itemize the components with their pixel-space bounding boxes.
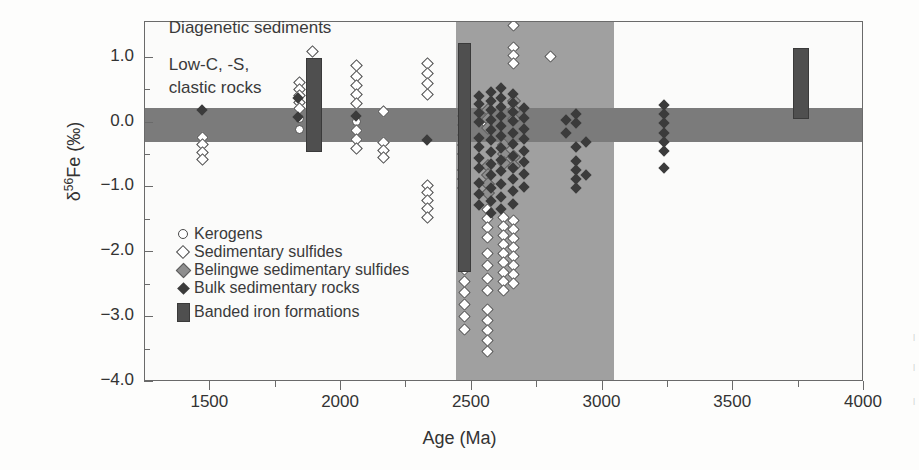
legend-item-open-diamond: Sedimentary sulfides <box>172 243 409 261</box>
legend-item-gray-diamond: Belingwe sedimentary sulfides <box>172 261 409 279</box>
x-tick-minor <box>798 381 799 387</box>
y-tick-major <box>144 381 153 382</box>
y-tick-major <box>144 122 153 123</box>
legend-swatch-black-diamond <box>172 284 194 293</box>
legend-swatch-open-circle <box>172 229 194 239</box>
y-tick-minor <box>144 89 150 90</box>
x-tick-label: 4000 <box>823 392 903 412</box>
page-edge-mark-2: | <box>913 362 915 371</box>
bif-1890 <box>306 58 322 152</box>
y-tick-major <box>144 57 153 58</box>
y-tick-minor <box>144 219 150 220</box>
legend-swatch-open-diamond <box>172 247 194 257</box>
data-point-sulfide <box>306 45 319 58</box>
x-tick-major <box>471 381 472 390</box>
x-tick-minor <box>405 381 406 387</box>
data-point-sulfide <box>421 88 434 101</box>
y-tick-major <box>144 186 153 187</box>
data-point-sulfide <box>421 211 434 224</box>
data-point-bulk <box>658 145 669 156</box>
y-axis-label-unit: Fe (‰) <box>64 122 84 178</box>
x-tick-label: 1500 <box>169 392 249 412</box>
legend-item-dark-bar: Banded iron formations <box>172 301 409 323</box>
y-tick-label: −3.0 <box>100 305 134 325</box>
legend-item-open-circle: Kerogens <box>172 225 409 243</box>
figure-root: δ56Fe (‰) Age (Ma) 1.00.0−1.0−2.0−3.0−4.… <box>0 0 919 470</box>
x-tick-label: 3500 <box>692 392 772 412</box>
page-edge-mark-3: | <box>913 396 915 405</box>
x-tick-major <box>602 381 603 390</box>
data-point-bulk <box>658 162 669 173</box>
open-circle-icon <box>178 229 188 239</box>
black-diamond-icon <box>177 282 190 295</box>
y-tick-label: −1.0 <box>100 175 134 195</box>
y-tick-minor <box>144 349 150 350</box>
page-edge-mark-1: | <box>913 332 915 341</box>
x-tick-minor <box>667 381 668 387</box>
y-tick-minor <box>144 154 150 155</box>
dark-bar-icon <box>177 303 190 322</box>
plot-clip <box>145 22 862 380</box>
x-tick-label: 3000 <box>562 392 642 412</box>
data-point-sulfide <box>377 152 390 165</box>
legend-label: Kerogens <box>194 225 263 243</box>
open-diamond-icon <box>176 245 190 259</box>
plot-area <box>144 21 863 381</box>
legend-item-black-diamond: Bulk sedimentary rocks <box>172 279 409 297</box>
gray-diamond-icon <box>175 262 191 278</box>
y-tick-label: 0.0 <box>110 111 134 131</box>
legend-swatch-dark-bar <box>172 303 194 322</box>
x-tick-major <box>732 381 733 390</box>
y-axis-label: δ56Fe (‰) <box>62 97 85 227</box>
y-tick-label: −4.0 <box>100 370 134 390</box>
x-tick-label: 2500 <box>431 392 511 412</box>
y-tick-minor <box>144 284 150 285</box>
x-tick-major <box>863 381 864 390</box>
y-tick-major <box>144 316 153 317</box>
legend-label: Bulk sedimentary rocks <box>194 279 359 297</box>
plot-annotation-3: clastic rocks <box>169 78 262 98</box>
y-tick-label: 1.0 <box>110 46 134 66</box>
plot-annotation-1: Diagenetic sediments <box>169 18 332 38</box>
x-tick-major <box>340 381 341 390</box>
y-tick-label: −2.0 <box>100 240 134 260</box>
legend-label: Banded iron formations <box>194 303 359 321</box>
bif-2470 <box>458 43 470 272</box>
bif-3750 <box>793 48 809 119</box>
plot-annotation-2: Low-C, -S, <box>169 55 249 75</box>
x-axis-label: Age (Ma) <box>0 428 919 449</box>
x-tick-major <box>209 381 210 390</box>
x-tick-minor <box>536 381 537 387</box>
y-axis-label-superscript: 56 <box>62 178 76 191</box>
x-tick-minor <box>275 381 276 387</box>
data-point-kerogen <box>295 125 304 134</box>
x-tick-label: 2000 <box>300 392 380 412</box>
legend-label: Sedimentary sulfides <box>194 243 343 261</box>
y-axis-label-delta: δ <box>64 191 84 201</box>
legend-label: Belingwe sedimentary sulfides <box>194 261 409 279</box>
chart-legend: KerogensSedimentary sulfidesBelingwe sed… <box>172 225 409 323</box>
legend-swatch-gray-diamond <box>172 265 194 276</box>
y-tick-major <box>144 251 153 252</box>
data-point-sulfide <box>350 142 363 155</box>
